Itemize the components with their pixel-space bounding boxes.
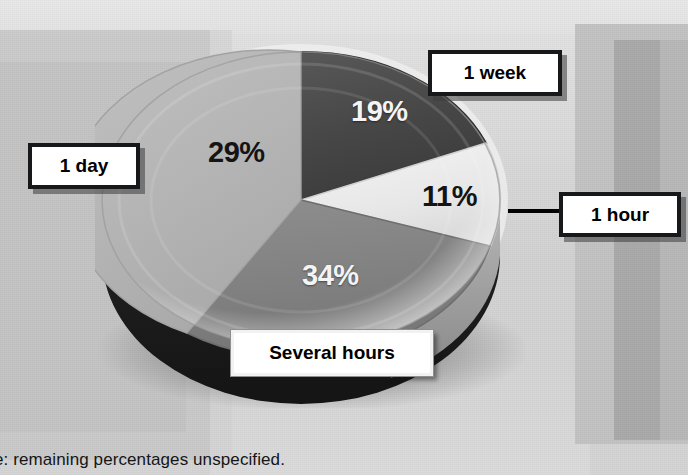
- callout-label-one-day[interactable]: 1 day: [28, 143, 140, 189]
- pie-chart-figure: 19% 29% 11% 34% 1 week 1 day 1 hour Seve…: [0, 0, 688, 475]
- footnote-text: e: remaining percentages unspecified.: [0, 450, 285, 470]
- callout-label-one-hour[interactable]: 1 hour: [559, 192, 681, 237]
- callout-label-several-hours[interactable]: Several hours: [231, 330, 433, 376]
- pie-rim-gloss: [102, 52, 500, 348]
- callout-label-one-week[interactable]: 1 week: [428, 50, 562, 96]
- leader-line-one-hour: [508, 209, 560, 213]
